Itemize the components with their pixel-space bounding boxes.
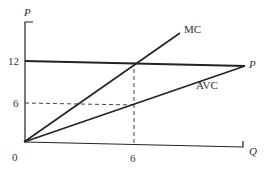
y-tick-6: 6 xyxy=(13,97,19,109)
mc-label: MC xyxy=(184,23,201,35)
x-axis-label: Q xyxy=(249,145,257,157)
origin-label: 0 xyxy=(12,151,18,163)
price-label: P xyxy=(248,58,256,70)
cost-curves-chart: P 12 6 0 6 Q MC AVC P xyxy=(0,0,265,172)
x-tick-6: 6 xyxy=(130,152,136,164)
y-axis-label: P xyxy=(23,6,31,18)
avc-label: AVC xyxy=(196,79,218,91)
mc-curve xyxy=(24,33,180,142)
y-axis xyxy=(25,22,33,142)
y-tick-12: 12 xyxy=(8,55,19,67)
